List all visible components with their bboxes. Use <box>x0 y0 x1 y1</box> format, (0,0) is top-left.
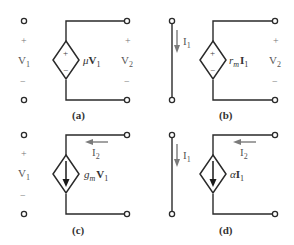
terminal-icon <box>21 97 26 102</box>
output-current-label: I2 <box>92 146 100 161</box>
bottom-wire <box>66 194 125 214</box>
source-plus-sign: + <box>210 48 215 58</box>
terminal-icon <box>169 211 174 216</box>
terminal-icon <box>21 211 26 216</box>
top-wire <box>66 21 125 41</box>
bottom-wire <box>213 194 273 214</box>
terminal-icon <box>272 18 277 23</box>
arrowhead-icon <box>174 159 180 167</box>
terminal-icon <box>169 97 174 102</box>
panel-c-vccs: + V1 − I2 gmV1 (c) <box>18 132 130 237</box>
terminal-icon <box>169 132 174 137</box>
plus-sign: + <box>21 35 27 46</box>
arrowhead-icon <box>85 139 93 145</box>
plus-sign: + <box>273 35 279 46</box>
minus-sign: − <box>20 76 26 87</box>
panel-caption: (c) <box>72 224 85 237</box>
terminal-icon <box>21 18 26 23</box>
panel-a-vcvs: + V1 − + − μV1 + V2 − (a) <box>18 18 133 122</box>
bottom-wire <box>66 80 125 100</box>
bottom-wire <box>213 80 273 100</box>
terminal-icon <box>124 97 129 102</box>
minus-sign: − <box>20 190 26 201</box>
terminal-icon <box>124 132 129 137</box>
input-current-label: I1 <box>183 149 191 164</box>
source-minus-sign: − <box>63 65 68 75</box>
arrowhead-icon <box>174 45 180 53</box>
panel-caption: (a) <box>72 109 85 122</box>
terminal-icon <box>272 132 277 137</box>
arrowhead-icon <box>233 139 241 145</box>
minus-sign: − <box>124 76 130 87</box>
panel-b-ccvs: I1 + − rmI1 + V2 − (b) <box>169 18 281 122</box>
source-minus-sign: − <box>210 65 215 75</box>
terminal-icon <box>272 97 277 102</box>
source-value-label: αI1 <box>230 168 244 183</box>
terminal-icon <box>272 211 277 216</box>
output-voltage-label: V2 <box>269 54 281 69</box>
top-wire <box>213 21 273 41</box>
source-value-label: rmI1 <box>229 54 248 69</box>
source-value-label: μV1 <box>82 54 100 69</box>
plus-sign: + <box>125 35 131 46</box>
plus-sign: + <box>21 148 27 159</box>
source-plus-sign: + <box>63 48 68 58</box>
terminal-icon <box>124 18 129 23</box>
input-voltage-label: V1 <box>18 54 30 69</box>
controlled-sources-figure: + V1 − + − μV1 + V2 − (a) I1 + − <box>0 0 294 245</box>
panel-caption: (b) <box>219 109 233 122</box>
panel-d-cccs: I1 I2 αI1 (d) <box>169 132 277 237</box>
output-voltage-label: V2 <box>121 54 133 69</box>
terminal-icon <box>21 132 26 137</box>
input-voltage-label: V1 <box>18 167 30 182</box>
source-value-label: gmV1 <box>84 168 108 183</box>
panel-caption: (d) <box>219 224 233 237</box>
terminal-icon <box>169 18 174 23</box>
minus-sign: − <box>272 76 278 87</box>
input-current-label: I1 <box>183 35 191 50</box>
output-current-label: I2 <box>240 146 248 161</box>
terminal-icon <box>124 211 129 216</box>
